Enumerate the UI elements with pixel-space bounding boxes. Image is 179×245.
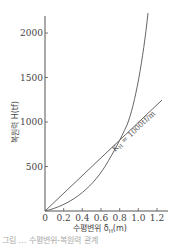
restoring-force-curve [45, 13, 148, 211]
y-tick-2000: 2000 [20, 28, 43, 38]
origin-label: 0 [42, 213, 48, 223]
stiffness-annotation: KH = 1000tf/m [110, 109, 157, 154]
chart: 500 1000 1500 2000 0 0.2 0.4 0.6 0.8 1.0… [0, 0, 179, 245]
x-axis-label: 수평변위 δH(m) [73, 223, 127, 234]
y-tick-1500: 1500 [20, 73, 43, 83]
figure-caption: 그림 … 수평변위-복원력 관계 [2, 234, 179, 245]
x-tick-0.4: 0.4 [75, 213, 90, 223]
x-tick-0.2: 0.2 [57, 213, 71, 223]
y-axis-label: 복원력 H(tf) [10, 101, 20, 143]
y-tick-1000: 1000 [20, 117, 43, 127]
y-tick-500: 500 [26, 162, 43, 172]
x-tick-0.6: 0.6 [94, 213, 109, 223]
x-tick-1.2: 1.2 [150, 213, 164, 223]
x-tick-0.8: 0.8 [113, 213, 128, 223]
x-tick-1.0: 1.0 [131, 213, 146, 223]
